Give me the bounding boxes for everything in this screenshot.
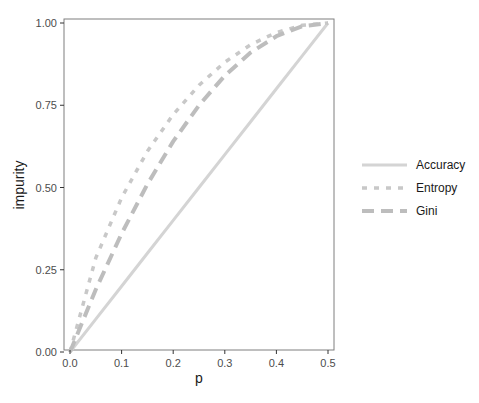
y-axis-title: impurity [11,160,27,209]
legend-label-gini: Gini [416,204,437,218]
x-tick-label: 0.0 [62,357,77,369]
legend: AccuracyEntropyGini [362,158,465,218]
x-axis: 0.00.10.20.30.40.5 [62,350,335,369]
y-tick-label: 0.25 [36,264,57,276]
x-tick-label: 0.1 [114,357,129,369]
x-tick-label: 0.4 [269,357,284,369]
x-tick-label: 0.3 [217,357,232,369]
impurity-chart: 0.000.250.500.751.00 0.00.10.20.30.40.5 … [0,0,479,403]
x-axis-title: p [195,370,203,386]
legend-label-entropy: Entropy [416,181,457,195]
x-tick-label: 0.5 [320,357,335,369]
y-tick-label: 0.50 [36,182,57,194]
y-tick-label: 1.00 [36,17,57,29]
y-tick-label: 0.75 [36,99,57,111]
legend-label-accuracy: Accuracy [416,158,465,172]
y-axis: 0.000.250.500.751.00 [36,17,64,358]
x-tick-label: 0.2 [166,357,181,369]
y-tick-label: 0.00 [36,346,57,358]
